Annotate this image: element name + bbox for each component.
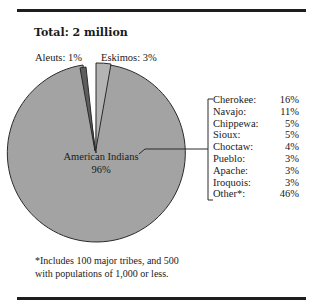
breakdown-row-cherokee: Cherokee:16% <box>213 94 299 106</box>
breakdown-label: Apache: <box>213 165 248 177</box>
breakdown-row-pueblo: Pueblo:3% <box>213 153 299 165</box>
breakdown-label: Sioux: <box>213 129 240 141</box>
breakdown-value: 5% <box>285 118 299 130</box>
breakdown-label: Iroquois: <box>213 177 251 189</box>
breakdown-value: 4% <box>285 141 299 153</box>
breakdown-value: 46% <box>280 188 299 200</box>
bottom-rule <box>17 297 306 300</box>
eskimos-label: Eskimos: 3% <box>101 52 157 63</box>
breakdown-label: Choctaw: <box>213 141 253 153</box>
breakdown-label: Other*: <box>213 188 245 200</box>
american-indians-name: American Indians <box>46 150 156 163</box>
breakdown-row-apache: Apache:3% <box>213 165 299 177</box>
breakdown-value: 11% <box>280 106 299 118</box>
breakdown-row-choctaw: Choctaw:4% <box>213 141 299 153</box>
american-indians-value: 96% <box>46 163 156 176</box>
breakdown-label: Navajo: <box>213 106 246 118</box>
breakdown-value: 5% <box>285 129 299 141</box>
breakdown-row-iroquois: Iroquois:3% <box>213 177 299 189</box>
footnote-line-2: with populations of 1,000 or less. <box>35 268 235 281</box>
breakdown-row-chippewa: Chippewa:5% <box>213 118 299 130</box>
breakdown-value: 16% <box>280 94 299 106</box>
breakdown-value: 3% <box>285 165 299 177</box>
tribe-breakdown-list: Cherokee:16% Navajo:11% Chippewa:5% Siou… <box>213 94 299 200</box>
aleuts-label: Aleuts: 1% <box>35 52 82 63</box>
breakdown-value: 3% <box>285 177 299 189</box>
breakdown-row-navajo: Navajo:11% <box>213 106 299 118</box>
breakdown-label: Cherokee: <box>213 94 256 106</box>
american-indians-label: American Indians 96% <box>46 150 156 176</box>
breakdown-row-sioux: Sioux:5% <box>213 129 299 141</box>
footnote-line-1: *Includes 100 major tribes, and 500 <box>35 255 235 268</box>
footnote: *Includes 100 major tribes, and 500 with… <box>35 255 235 280</box>
breakdown-label: Pueblo: <box>213 153 245 165</box>
breakdown-row-other: Other*:46% <box>213 188 299 200</box>
breakdown-label: Chippewa: <box>213 118 259 130</box>
breakdown-value: 3% <box>285 153 299 165</box>
